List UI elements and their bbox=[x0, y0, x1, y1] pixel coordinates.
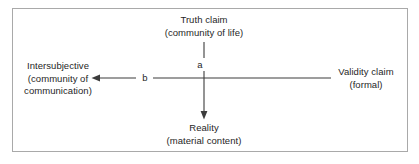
node-truth-claim-line-1: Truth claim bbox=[104, 14, 304, 27]
edge-label-a: a bbox=[193, 59, 207, 71]
node-validity-claim: Validity claim (formal) bbox=[326, 66, 406, 91]
node-truth-claim: Truth claim (community of life) bbox=[104, 14, 304, 39]
node-intersubjective: Intersubjective (community of communicat… bbox=[14, 60, 102, 98]
node-intersubjective-line-2: (community of bbox=[14, 73, 102, 86]
diagram-canvas: Truth claim (community of life) Intersub… bbox=[0, 0, 419, 164]
edge-label-b: b bbox=[137, 72, 153, 84]
node-intersubjective-line-1: Intersubjective bbox=[14, 60, 102, 73]
node-validity-claim-line-1: Validity claim bbox=[326, 66, 406, 79]
node-reality-line-1: Reality bbox=[104, 122, 304, 135]
node-intersubjective-line-3: communication) bbox=[14, 85, 102, 98]
node-validity-claim-line-2: (formal) bbox=[326, 79, 406, 92]
node-reality-line-2: (material content) bbox=[104, 135, 304, 148]
node-reality: Reality (material content) bbox=[104, 122, 304, 147]
node-truth-claim-line-2: (community of life) bbox=[104, 27, 304, 40]
